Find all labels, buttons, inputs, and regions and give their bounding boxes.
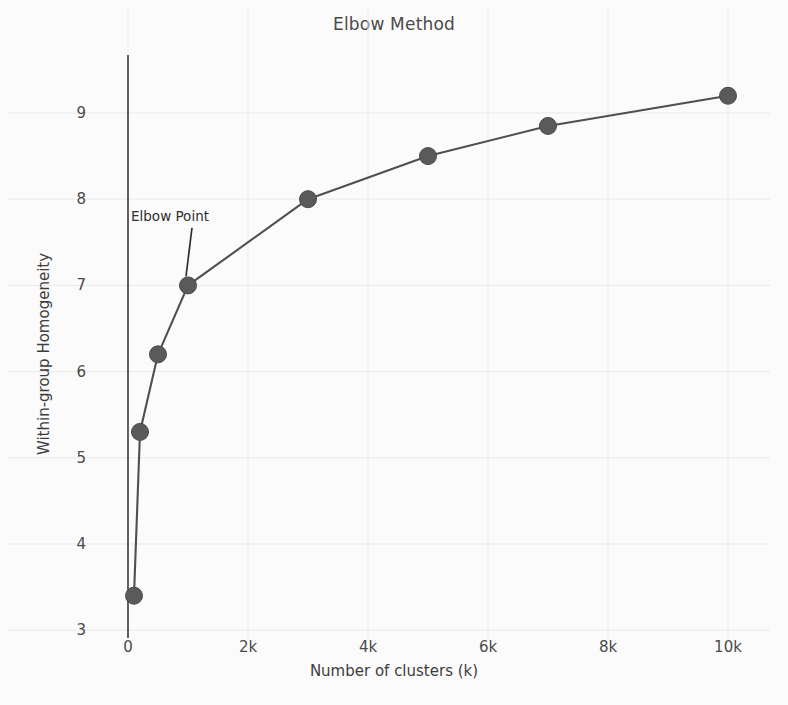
data-point-marker [720,87,737,104]
series-line [134,96,728,596]
data-point-marker [180,277,197,294]
annotation-elbow-point: Elbow Point [131,208,209,277]
x-tick-label: 2k [239,638,258,656]
x-tick-label: 6k [479,638,498,656]
annotation-arrow-shaft [186,228,192,277]
data-point-marker [126,587,143,604]
y-tick-label: 5 [76,449,86,467]
chart-figure: Elbow Method 3456789 02k4k6k8k10k Elbow … [0,0,788,705]
gridlines-horizontal [8,113,770,630]
x-tick-label: 8k [599,638,618,656]
x-tick-label: 0 [123,638,133,656]
x-axis-tick-labels: 02k4k6k8k10k [123,638,742,656]
y-axis-tick-labels: 3456789 [76,104,86,639]
x-tick-label: 4k [359,638,378,656]
y-tick-label: 6 [76,363,86,381]
data-point-marker [300,191,317,208]
y-tick-label: 4 [76,535,86,553]
data-point-marker [150,346,167,363]
annotation-label: Elbow Point [131,208,209,224]
plot-area: 3456789 02k4k6k8k10k Elbow Point [0,0,788,705]
y-tick-label: 3 [76,621,86,639]
y-axis-title: Within-group Homogeneity [35,224,53,484]
x-axis-title: Number of clusters (k) [0,662,788,680]
y-tick-label: 7 [76,276,86,294]
x-tick-label: 10k [714,638,742,656]
data-point-marker [540,117,557,134]
y-tick-label: 8 [76,190,86,208]
data-series-elbow-curve [126,87,737,604]
y-tick-label: 9 [76,104,86,122]
data-point-marker [132,423,149,440]
data-point-marker [420,148,437,165]
